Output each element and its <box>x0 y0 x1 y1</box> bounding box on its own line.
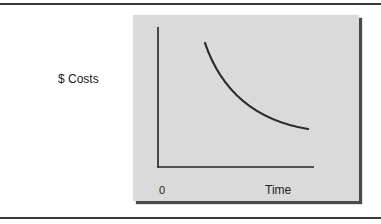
y-axis-label: $ Costs <box>58 72 99 86</box>
cost-curve <box>205 43 308 129</box>
x-axis-label: Time <box>265 183 291 197</box>
top-rule <box>0 3 381 5</box>
bottom-rule <box>0 217 381 219</box>
x-origin-label: 0 <box>159 184 165 196</box>
chart-plot <box>133 15 359 201</box>
chart-panel: 0 Time <box>133 15 359 201</box>
